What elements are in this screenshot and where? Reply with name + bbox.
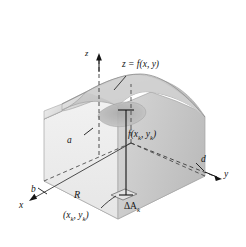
axis-label-z: z	[85, 49, 88, 58]
base-area-label-base: ΔA	[124, 201, 137, 211]
height-label-close: )	[153, 129, 156, 139]
figure-container: z z = f(x, y) a b d x y R f(xk, yk) ΔAk …	[0, 0, 246, 247]
axis-label-x: x	[19, 201, 23, 211]
region-label-R: R	[74, 190, 80, 200]
x-axis-arrowhead	[29, 194, 37, 201]
column-height-label: f(xk, yk)	[128, 130, 156, 142]
height-label-mid: , y	[141, 129, 150, 139]
sample-point-label: (xk, yk)	[63, 211, 89, 223]
base-area-label: ΔAk	[124, 202, 140, 214]
sample-point-close: )	[85, 210, 88, 220]
axis-label-y: y	[224, 170, 228, 180]
y-axis-arrowhead	[214, 175, 222, 181]
z-axis-arrowhead	[96, 53, 102, 61]
dimension-label-b: b	[31, 185, 36, 195]
dimension-label-a: a	[67, 136, 72, 146]
height-label-base: f(x	[128, 129, 138, 139]
base-area-label-sub: k	[137, 206, 140, 213]
solid-under-surface-diagram	[0, 0, 246, 247]
dimension-label-d: d	[201, 155, 206, 165]
surface-equation-label: z = f(x, y)	[122, 60, 159, 70]
